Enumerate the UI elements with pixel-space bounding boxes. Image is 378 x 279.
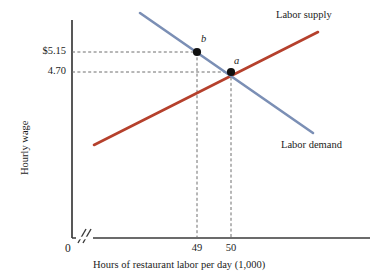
labor-demand-curve [140,13,313,133]
origin-label: 0 [65,243,71,255]
data-point-b [193,48,201,56]
labor-market-supply-demand-chart: $5.15 4.70 49 50 0 Hours of restaurant l… [0,0,378,279]
y-tick-label-470: 4.70 [10,66,66,77]
point-b-label: b [201,34,206,45]
x-tick-label-50: 50 [217,243,245,254]
labor-supply-label: Labor supply [276,10,332,21]
x-axis-break-icon [76,229,93,243]
y-tick-label-515: $5.15 [10,46,66,57]
labor-supply-curve [94,32,318,145]
labor-demand-label: Labor demand [281,140,342,151]
y-axis-title: Hourly wage [20,120,31,175]
data-point-a [227,68,235,76]
x-axis-title: Hours of restaurant labor per day (1,000… [93,260,265,271]
x-tick-label-49: 49 [183,243,211,254]
point-a-label: a [234,56,239,67]
